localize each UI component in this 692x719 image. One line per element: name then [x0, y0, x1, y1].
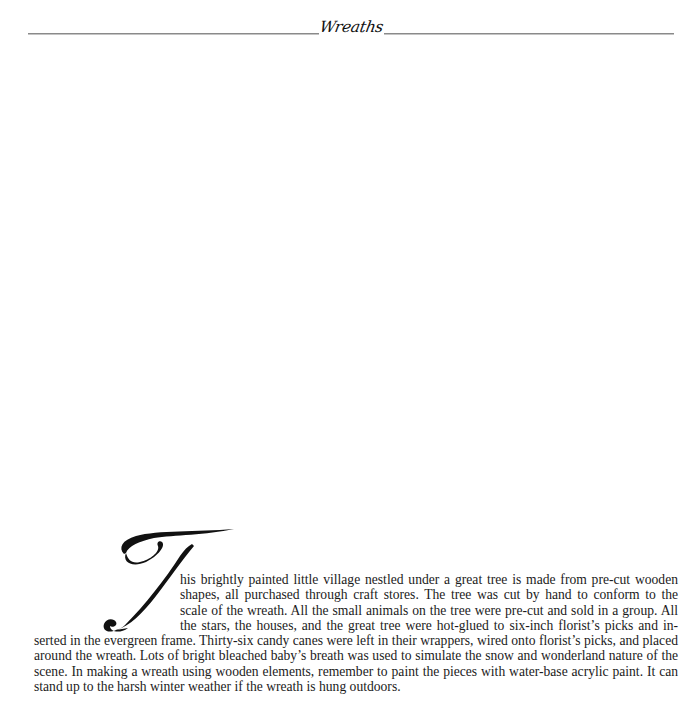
paragraph-line: scene. In making a wreath using wooden e… [34, 664, 678, 679]
body-paragraph: his brightly painted little village nest… [34, 572, 678, 694]
section-title: Wreaths [318, 18, 379, 36]
header-rule-right [384, 33, 674, 35]
paragraph-line: stand up to the harsh winter weather if … [34, 679, 678, 694]
paragraph-line: shapes, all purchased through craft stor… [180, 587, 678, 602]
paragraph-line: serted in the evergreen frame. Thirty-si… [34, 633, 678, 648]
paragraph-line: around the wreath. Lots of bright bleach… [34, 648, 678, 663]
header-rule-left [28, 33, 319, 35]
paragraph-line: scale of the wreath. All the small anima… [180, 603, 678, 618]
paragraph-line: his brightly painted little village nest… [180, 572, 678, 587]
paragraph-line: the stars, the houses, and the great tre… [180, 618, 678, 633]
page-header: Wreaths [0, 0, 692, 50]
